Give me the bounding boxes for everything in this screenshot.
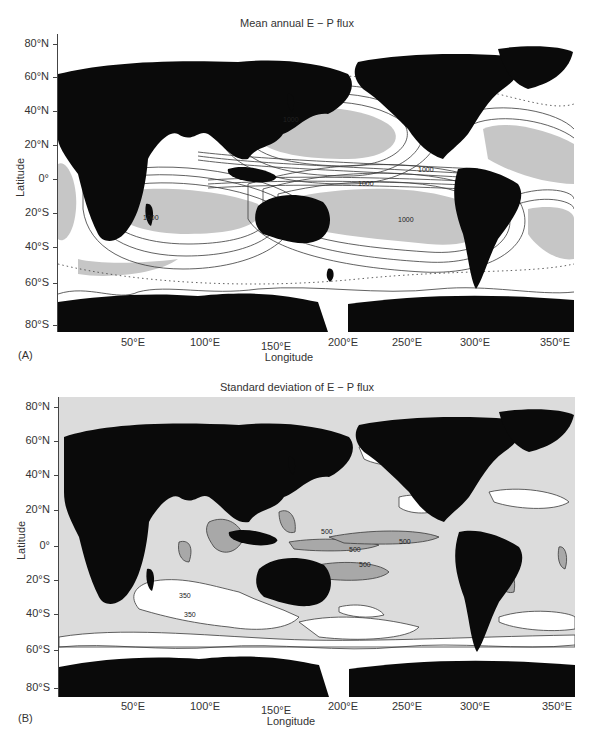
y-tick: 60°N [6, 434, 50, 446]
panel-b-map-graphic: 500 500 500 500 350 350 [59, 397, 575, 697]
x-tick: 350°E [532, 700, 582, 712]
contour-label: 350 [179, 592, 191, 599]
x-tick: 250°E [382, 700, 432, 712]
contour-label: 500 [399, 538, 411, 545]
x-tick: 100°E [180, 700, 230, 712]
y-tick: 80°N [6, 400, 50, 412]
contour-label: 500 [359, 561, 371, 568]
x-tick: 200°E [318, 700, 368, 712]
contour-label: 350 [184, 611, 196, 618]
y-axis-label: Latitude [15, 521, 27, 560]
x-axis-label: Longitude [241, 715, 341, 727]
panel-b-title: Standard deviation of E − P flux [0, 381, 594, 393]
y-tick: 40°N [6, 468, 50, 480]
contour-label: 500 [349, 546, 361, 553]
contour-label: 500 [321, 528, 333, 535]
y-tick: 80°S [6, 681, 50, 693]
panel-b-map: 500 500 500 500 350 350 [58, 397, 575, 697]
y-tick: 40°S [6, 607, 50, 619]
x-tick: 300°E [450, 700, 500, 712]
panel-letter: (B) [18, 712, 33, 724]
y-tick: 60°S [6, 643, 50, 655]
x-tick: 50°E [108, 700, 158, 712]
y-tick: 20°N [6, 503, 50, 515]
y-tick: 0° [6, 539, 50, 551]
y-tick: 20°S [6, 573, 50, 585]
panel-b: Standard deviation of E − P flux [0, 0, 594, 744]
